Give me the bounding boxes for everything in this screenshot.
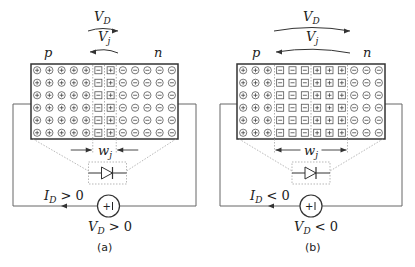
panel-b-zoom-line-right (330, 139, 383, 171)
panel-a-p-label: p (44, 46, 52, 59)
panel-a-current-label: ID > 0 (44, 189, 84, 205)
diagram-canvas: ++ (0, 0, 415, 267)
panel-a-wj-label: wj (98, 144, 112, 160)
panel-b-caption: (b) (305, 242, 321, 253)
panel-a-vd-label: VD (94, 10, 111, 26)
panel-a-vd-arrowhead (112, 29, 118, 34)
panel-b-vj-label: Vj (306, 30, 318, 46)
panel-b-p-label: p (252, 46, 260, 59)
panel-a-n-label: n (154, 46, 162, 59)
panel-b-zoom-line-left (239, 139, 292, 171)
panel-a-zoom-line-right (127, 139, 177, 171)
panel-b-vd-arrowhead (344, 29, 350, 34)
pn-junction-diagram: ++ VD Vj p n wj ID > 0 VD > 0 (a) VD Vj … (0, 0, 415, 267)
panel-a-zoom-line-left (33, 139, 89, 171)
panel-a-source-label: VD > 0 (88, 220, 132, 236)
panel-b-source-plus: + (305, 201, 313, 212)
panel-b-source-label: VD < 0 (294, 220, 338, 236)
panel-b-vd-label: VD (303, 10, 320, 26)
panel-b-vj-arrow (276, 49, 350, 53)
panel-b-n-label: n (363, 46, 371, 59)
panel-b-current-label: ID < 0 (250, 189, 290, 205)
panel-a-vj-label: Vj (98, 30, 110, 46)
panel-a-caption: (a) (97, 242, 112, 253)
panel-a-vj-arrowhead (90, 50, 96, 55)
panel-b-vj-arrowhead (276, 50, 282, 55)
panel-a-source-plus: + (103, 201, 111, 212)
panel-b-wj-label: wj (304, 144, 318, 160)
